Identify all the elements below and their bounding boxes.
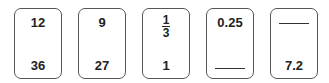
card-5-bottom-value: 7.2 [271, 58, 317, 73]
card-4-bottom-blank [207, 68, 253, 73]
card-1: 12 36 [14, 8, 62, 79]
card-3-bottom-value: 1 [143, 58, 189, 73]
card-5-top-blank [271, 15, 317, 24]
card-1-bottom-value: 36 [15, 58, 61, 73]
card-4-top-value: 0.25 [207, 15, 253, 30]
fraction: 1 3 [162, 14, 171, 39]
card-5: 7.2 [270, 8, 318, 79]
card-3: 1 3 1 [142, 8, 190, 79]
blank-line [215, 68, 245, 69]
card-4: 0.25 [206, 8, 254, 79]
card-2-bottom-value: 27 [79, 58, 125, 73]
blank-line [279, 23, 309, 24]
card-2-top-value: 9 [79, 15, 125, 30]
card-1-top-value: 12 [15, 15, 61, 30]
card-3-top-fraction: 1 3 [143, 12, 189, 39]
card-2: 9 27 [78, 8, 126, 79]
fraction-denominator: 3 [163, 27, 170, 39]
